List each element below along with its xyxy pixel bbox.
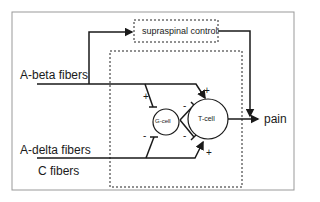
t-cell-label: T-cell	[198, 115, 215, 122]
supraspinal-label: supraspinal control	[142, 26, 218, 36]
sign-g-t-upper: -	[183, 100, 186, 111]
sign-g-t-lower: -	[183, 130, 186, 141]
a-beta-label: A-beta fibers	[20, 68, 88, 82]
pain-label: pain	[264, 112, 287, 126]
sign-abeta-t: +	[204, 85, 210, 96]
c-fibers-label: C fibers	[38, 164, 79, 178]
g-cell-label: G-cell	[155, 118, 171, 124]
sign-abeta-g: +	[143, 91, 149, 102]
sign-small-t: +	[206, 147, 212, 158]
sign-small-g: -	[143, 130, 146, 141]
a-delta-label: A-delta fibers	[20, 143, 91, 157]
